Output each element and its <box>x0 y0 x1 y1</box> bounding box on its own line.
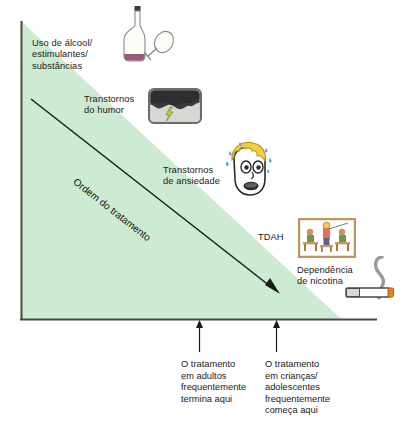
marker-caption-adults-end: O tratamento em adultos frequentemente t… <box>181 359 259 405</box>
figure-canvas: Uso de álcool/ estimulantes/ substâncias… <box>0 0 413 426</box>
storm-cloud-lightning-icon <box>148 88 202 124</box>
marker-arrow-adults-head <box>196 320 203 328</box>
condition-label-alcohol: Uso de álcool/ estimulantes/ substâncias <box>32 38 127 72</box>
marker-arrow-children-head <box>273 320 280 328</box>
condition-label-nicotine: Dependência de nicotina <box>297 265 361 288</box>
condition-label-anxiety: Transtornos de ansiedade <box>163 165 233 188</box>
marker-caption-children-start: O tratamento em crianças/ adolescentes f… <box>265 359 349 417</box>
classroom-icon <box>298 218 356 258</box>
condition-label-adhd: TDAH <box>258 232 300 243</box>
condition-label-mood: Transtornos do humor <box>84 94 150 117</box>
clipped-page-text <box>0 417 413 425</box>
